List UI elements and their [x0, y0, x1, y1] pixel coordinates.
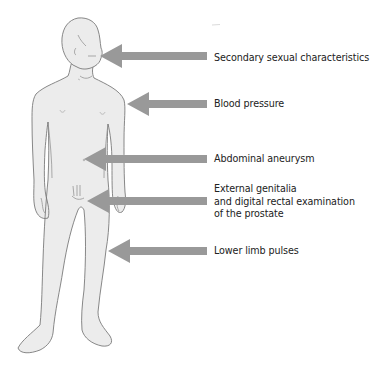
- label-secondary-sexual-characteristics: Secondary sexual characteristics: [214, 52, 369, 65]
- arrow-abdominal-aneurysm: [84, 147, 207, 171]
- label-line: Lower limb pulses: [214, 245, 299, 258]
- label-line: Abdominal aneurysm: [214, 153, 314, 166]
- label-line: Secondary sexual characteristics: [214, 52, 369, 65]
- stray-mark: [212, 25, 220, 26]
- label-blood-pressure: Blood pressure: [214, 98, 284, 111]
- label-line: of the prostate: [214, 208, 355, 221]
- label-line: External genitalia: [214, 183, 355, 196]
- arrow-lower-limb-pulses: [108, 239, 207, 263]
- arrow-external-genitalia: [87, 189, 207, 213]
- label-line: Blood pressure: [214, 98, 284, 111]
- label-lower-limb-pulses: Lower limb pulses: [214, 245, 299, 258]
- arrow-blood-pressure: [127, 92, 207, 116]
- male-body-outline: [18, 18, 126, 353]
- label-abdominal-aneurysm: Abdominal aneurysm: [214, 153, 314, 166]
- label-external-genitalia: External genitalia and digital rectal ex…: [214, 183, 355, 221]
- arrow-secondary-sexual: [100, 44, 207, 68]
- label-line: and digital rectal examination: [214, 196, 355, 209]
